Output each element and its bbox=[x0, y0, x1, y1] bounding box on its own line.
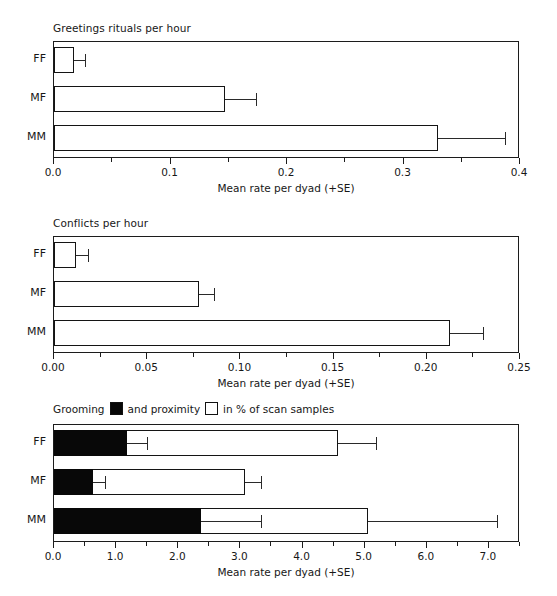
x-tick-minor bbox=[146, 542, 147, 546]
legend-label-grooming: Grooming bbox=[53, 403, 105, 415]
x-tick-label: 5.0 bbox=[355, 550, 372, 562]
x-tick-minor bbox=[333, 542, 334, 546]
x-tick-label: 0.0 bbox=[45, 166, 62, 178]
category-label: MF bbox=[6, 91, 46, 104]
bar bbox=[54, 320, 450, 346]
panel-1-title: Greetings rituals per hour bbox=[53, 22, 191, 34]
x-tick-minor bbox=[379, 353, 380, 357]
panel-2-x-axis: Mean rate per dyad (+SE) 0.000.050.100.1… bbox=[53, 353, 519, 387]
bar-grooming bbox=[54, 469, 93, 495]
error-bar-whisker bbox=[438, 138, 504, 139]
error-bar-cap bbox=[88, 249, 89, 262]
x-tick-label: 0.05 bbox=[134, 361, 157, 373]
error-bar-cap bbox=[105, 476, 106, 489]
bar-row: FF bbox=[54, 47, 518, 73]
error-bar-whisker bbox=[76, 255, 87, 256]
x-tick-minor bbox=[208, 542, 209, 546]
x-tick-minor bbox=[461, 158, 462, 162]
x-tick-major bbox=[426, 353, 427, 359]
x-tick-major bbox=[53, 158, 54, 164]
x-tick-major bbox=[53, 542, 54, 548]
panel-grooming-proximity: Grooming and proximity in % of scan samp… bbox=[0, 398, 557, 596]
error-bar-whisker bbox=[245, 482, 261, 483]
x-tick-major bbox=[302, 542, 303, 548]
x-tick-major bbox=[403, 158, 404, 164]
x-tick-major bbox=[519, 353, 520, 359]
error-bar-whisker bbox=[368, 521, 497, 522]
x-tick-major bbox=[364, 542, 365, 548]
x-tick-major bbox=[519, 158, 520, 164]
legend-swatch-proximity-icon bbox=[205, 402, 218, 415]
bar bbox=[54, 125, 438, 151]
x-tick-major bbox=[115, 542, 116, 548]
category-label: FF bbox=[6, 52, 46, 65]
error-bar-whisker bbox=[74, 60, 86, 61]
bar-row: FF bbox=[54, 242, 518, 268]
x-tick-major bbox=[488, 542, 489, 548]
x-tick-label: 0.10 bbox=[228, 361, 251, 373]
x-tick-label: 6.0 bbox=[417, 550, 434, 562]
bar-row: MM bbox=[54, 508, 518, 534]
x-tick-label: 1.0 bbox=[107, 550, 124, 562]
bar-row: MF bbox=[54, 281, 518, 307]
panel-3-x-axis: Mean rate per dyad (+SE) 0.01.02.03.04.0… bbox=[53, 542, 519, 576]
x-tick-major bbox=[239, 542, 240, 548]
error-bar-whisker bbox=[199, 294, 214, 295]
x-tick-label: 0.0 bbox=[45, 550, 62, 562]
x-tick-minor bbox=[84, 542, 85, 546]
error-bar-cap bbox=[483, 327, 484, 340]
bar-row: MF bbox=[54, 469, 518, 495]
panel-conflicts: Conflicts per hour FFMFMM Mean rate per … bbox=[0, 205, 557, 395]
error-bar-whisker bbox=[225, 99, 255, 100]
error-bar-cap bbox=[261, 476, 262, 489]
x-tick-major bbox=[239, 353, 240, 359]
x-tick-major bbox=[333, 353, 334, 359]
x-tick-minor bbox=[100, 353, 101, 357]
panel-3-axis-title: Mean rate per dyad (+SE) bbox=[53, 566, 519, 578]
error-bar-cap bbox=[256, 93, 257, 106]
legend-label-proximity: and proximity bbox=[128, 403, 201, 415]
x-tick-label: 0.20 bbox=[414, 361, 437, 373]
x-tick-label: 3.0 bbox=[231, 550, 248, 562]
error-bar-cap bbox=[147, 437, 148, 450]
x-tick-major bbox=[146, 353, 147, 359]
x-tick-major bbox=[170, 158, 171, 164]
error-bar-whisker bbox=[127, 443, 147, 444]
bar-grooming bbox=[54, 508, 201, 534]
panel-2-plot-area: FFMFMM bbox=[53, 236, 519, 353]
category-label: MM bbox=[6, 325, 46, 338]
x-tick-minor bbox=[193, 353, 194, 357]
bar bbox=[54, 47, 74, 73]
panel-1-axis-title: Mean rate per dyad (+SE) bbox=[53, 182, 519, 194]
bar-grooming bbox=[54, 430, 127, 456]
x-tick-label: 0.4 bbox=[511, 166, 528, 178]
x-tick-label: 2.0 bbox=[169, 550, 186, 562]
error-bar-whisker bbox=[338, 443, 376, 444]
x-tick-minor bbox=[472, 353, 473, 357]
error-bar-whisker bbox=[201, 521, 261, 522]
bar bbox=[54, 242, 76, 268]
panel-1-plot-area: FFMFMM bbox=[53, 41, 519, 158]
panel-greetings: Greetings rituals per hour FFMFMM Mean r… bbox=[0, 10, 557, 200]
bar-row: MM bbox=[54, 320, 518, 346]
figure: Greetings rituals per hour FFMFMM Mean r… bbox=[0, 0, 557, 596]
x-tick-minor bbox=[395, 542, 396, 546]
error-bar-cap bbox=[497, 515, 498, 528]
error-bar-whisker bbox=[93, 482, 105, 483]
x-tick-minor bbox=[286, 353, 287, 357]
error-bar-cap bbox=[85, 54, 86, 67]
x-tick-label: 7.0 bbox=[480, 550, 497, 562]
bar-row: MM bbox=[54, 125, 518, 151]
category-label: MM bbox=[6, 513, 46, 526]
x-tick-minor bbox=[519, 542, 520, 546]
x-tick-label: 0.3 bbox=[394, 166, 411, 178]
panel-2-title: Conflicts per hour bbox=[53, 217, 148, 229]
error-bar-cap bbox=[505, 132, 506, 145]
error-bar-cap bbox=[261, 515, 262, 528]
x-tick-minor bbox=[270, 542, 271, 546]
bar bbox=[54, 86, 225, 112]
category-label: FF bbox=[6, 247, 46, 260]
error-bar-whisker bbox=[450, 333, 483, 334]
category-label: FF bbox=[6, 435, 46, 448]
bar bbox=[54, 281, 199, 307]
